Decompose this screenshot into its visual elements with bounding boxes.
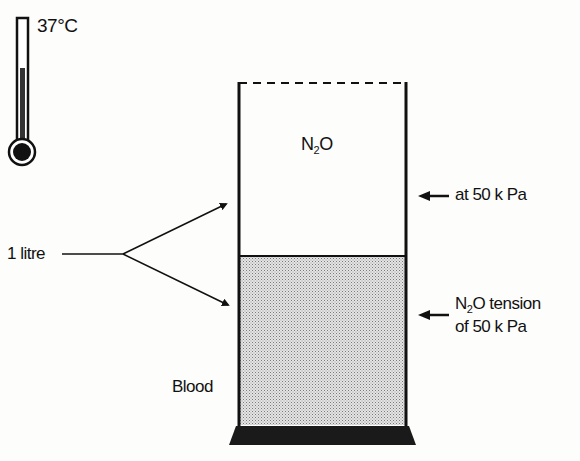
temperature-label: 37°C (37, 16, 77, 35)
container-base (229, 426, 416, 445)
pressure-label: at 50 k Pa (455, 186, 527, 203)
blood-label: Blood (172, 378, 213, 395)
diagram-canvas: 37°C N2O at 50 k Pa N2O tension of 50 k … (0, 0, 580, 461)
tension-arrow (418, 310, 449, 320)
blood-region (239, 256, 406, 425)
diagram-graphics (0, 0, 580, 461)
gas-label: N2O (301, 135, 333, 153)
tension-label-line2: of 50 k Pa (455, 316, 541, 339)
volume-label: 1 litre (7, 245, 45, 262)
tension-label: N2O tension of 50 k Pa (455, 293, 541, 339)
volume-arrows (62, 204, 228, 305)
pressure-arrow (418, 191, 449, 201)
thermometer-icon (9, 18, 35, 165)
gas-label-subscript: 2 (314, 144, 320, 156)
gas-label-suffix: O (319, 134, 333, 154)
tension-label-line1: N2O tension (455, 293, 541, 316)
gas-label-prefix: N (301, 134, 314, 154)
